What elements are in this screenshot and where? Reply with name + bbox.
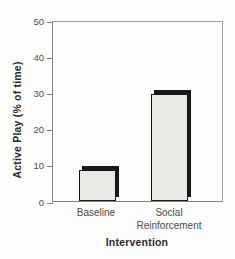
category-label-social-reinforcement: Social Reinforcement — [124, 207, 214, 232]
y-tick-mark — [47, 203, 53, 204]
y-tick-mark — [47, 130, 53, 131]
y-tick-label: 40 — [14, 52, 44, 63]
y-tick-mark — [47, 58, 53, 59]
plot-area — [52, 21, 223, 202]
y-tick-mark — [47, 94, 53, 95]
y-tick-label: 0 — [14, 197, 44, 208]
bar-baseline — [79, 170, 116, 201]
y-tick-label: 30 — [14, 88, 44, 99]
y-tick-label: 20 — [14, 124, 44, 135]
y-tick-mark — [47, 166, 53, 167]
x-axis-title: Intervention — [77, 236, 197, 248]
y-tick-mark — [47, 22, 53, 23]
y-tick-label: 10 — [14, 160, 44, 171]
bar-social-reinforcement — [151, 94, 188, 201]
y-tick-label: 50 — [14, 16, 44, 27]
bar-chart-figure: Active Play (% of time) Intervention 010… — [0, 0, 235, 259]
